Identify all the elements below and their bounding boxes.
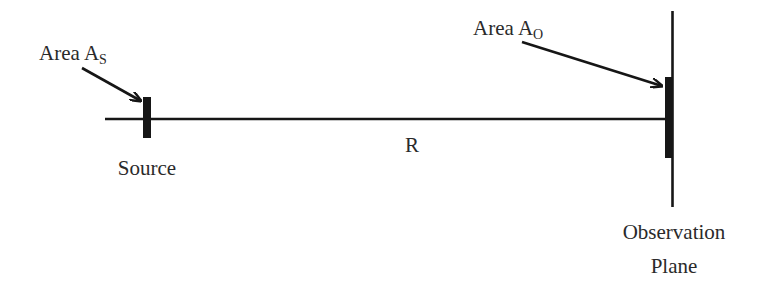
- observation-area-bar: [665, 77, 673, 158]
- observation-plane-label-line1: Observation: [623, 220, 726, 244]
- source-area-label-prefix: Area A: [39, 41, 100, 65]
- source-area-arrow: [82, 68, 141, 101]
- source-area-label-subscript: S: [99, 52, 107, 67]
- observation-plane-label-line2: Plane: [651, 254, 698, 278]
- source-observation-diagram: Area AS Area AO R Source Observation Pla…: [0, 0, 779, 292]
- observation-area-label-prefix: Area A: [473, 16, 534, 40]
- source-label: Source: [118, 156, 176, 180]
- distance-label: R: [405, 133, 419, 157]
- observation-area-arrow: [522, 42, 662, 86]
- source-aperture-bar: [143, 97, 151, 138]
- source-area-label: Area AS: [39, 41, 107, 67]
- observation-area-label-subscript: O: [533, 27, 543, 42]
- observation-area-label: Area AO: [473, 16, 543, 42]
